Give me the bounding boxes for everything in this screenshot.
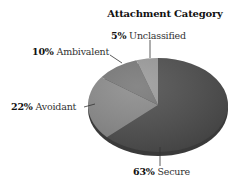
avoidant-name: Avoidant [35,101,76,112]
unclassified-pct: 5% [111,30,126,41]
secure-name: Secure [157,166,190,177]
pie-chart: Attachment Category 5% Unclassified 10% … [0,0,238,180]
leader-ambivalent [110,55,122,63]
label-unclassified: 5% Unclassified [111,30,186,41]
label-ambivalent: 10% Ambivalent [32,46,109,57]
ambivalent-pct: 10% [32,46,54,57]
pie-shading [88,58,228,152]
avoidant-pct: 22% [11,101,33,112]
label-avoidant: 22% Avoidant [11,101,76,112]
unclassified-name: Unclassified [129,30,186,41]
secure-pct: 63% [133,166,155,177]
label-secure: 63% Secure [133,166,190,177]
ambivalent-name: Ambivalent [56,46,109,57]
pie-graphic [0,0,238,180]
